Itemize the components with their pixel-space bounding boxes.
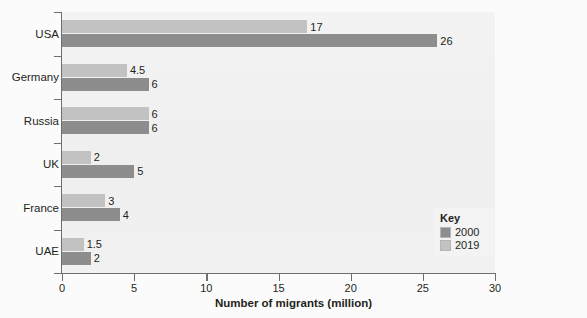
- bar-value-label: 2: [94, 151, 100, 163]
- x-axis-tick-label: 25: [417, 282, 429, 294]
- bar-uae-2000: [62, 252, 91, 265]
- x-axis-tick-label: 10: [200, 282, 212, 294]
- legend-key-box: Key 20002019: [434, 208, 494, 256]
- y-axis-tick: [54, 186, 62, 187]
- x-axis-title: Number of migrants (million): [0, 297, 587, 309]
- x-axis-tick: [134, 274, 135, 281]
- bar-usa-2019: [62, 20, 307, 33]
- y-axis-tick: [54, 143, 62, 144]
- bar-uk-2000: [62, 165, 134, 178]
- bar-france-2019: [62, 194, 105, 207]
- plot-background: [62, 12, 495, 274]
- x-axis-tick: [62, 274, 63, 281]
- legend-swatch-icon: [440, 227, 451, 238]
- bar-usa-2000: [62, 34, 437, 47]
- bar-value-label: 6: [152, 78, 158, 90]
- y-axis-tick: [54, 230, 62, 231]
- x-axis-tick: [495, 274, 496, 281]
- x-axis-tick: [423, 274, 424, 281]
- bar-value-label: 3: [108, 195, 114, 207]
- bar-germany-2019: [62, 64, 127, 77]
- y-axis-category-label: Germany: [12, 71, 59, 83]
- x-axis-tick: [206, 274, 207, 281]
- legend-swatch-icon: [440, 240, 451, 251]
- legend-title: Key: [440, 212, 488, 224]
- x-axis-tick: [351, 274, 352, 281]
- bar-uk-2019: [62, 151, 91, 164]
- bar-russia-2019: [62, 107, 149, 120]
- legend-item-2000: 2000: [440, 227, 488, 238]
- y-axis-category-label: USA: [35, 28, 59, 40]
- y-axis-category-label: France: [23, 202, 59, 214]
- legend-label: 2000: [455, 227, 479, 238]
- y-axis-category-label: UK: [43, 158, 59, 170]
- bar-russia-2000: [62, 121, 149, 134]
- x-axis-tick-label: 15: [272, 282, 284, 294]
- legend-entries: 20002019: [440, 227, 488, 251]
- bar-value-label: 2: [94, 252, 100, 264]
- bar-value-label: 26: [440, 35, 452, 47]
- plot-area: [62, 12, 495, 274]
- x-axis-tick-label: 5: [131, 282, 137, 294]
- y-axis-tick: [54, 273, 62, 274]
- bar-value-label: 17: [310, 21, 322, 33]
- bar-germany-2000: [62, 78, 149, 91]
- bar-value-label: 6: [152, 108, 158, 120]
- bar-value-label: 4: [123, 209, 129, 221]
- bar-france-2000: [62, 208, 120, 221]
- y-axis-tick: [54, 12, 62, 13]
- bar-chart: 051015202530 USAGermanyRussiaUKFranceUAE…: [0, 0, 587, 318]
- y-axis-tick: [54, 56, 62, 57]
- y-axis-category-label: UAE: [35, 245, 59, 257]
- bar-value-label: 5: [137, 165, 143, 177]
- y-axis-tick: [54, 99, 62, 100]
- legend-label: 2019: [455, 240, 479, 251]
- bar-uae-2019: [62, 238, 84, 251]
- bar-value-label: 4.5: [130, 64, 145, 76]
- x-axis-tick: [279, 274, 280, 281]
- y-axis-category-label: Russia: [24, 115, 59, 127]
- x-axis-tick-label: 0: [59, 282, 65, 294]
- bar-value-label: 6: [152, 122, 158, 134]
- x-axis-tick-label: 30: [489, 282, 501, 294]
- bar-value-label: 1.5: [87, 238, 102, 250]
- legend-item-2019: 2019: [440, 240, 488, 251]
- x-axis-tick-label: 20: [345, 282, 357, 294]
